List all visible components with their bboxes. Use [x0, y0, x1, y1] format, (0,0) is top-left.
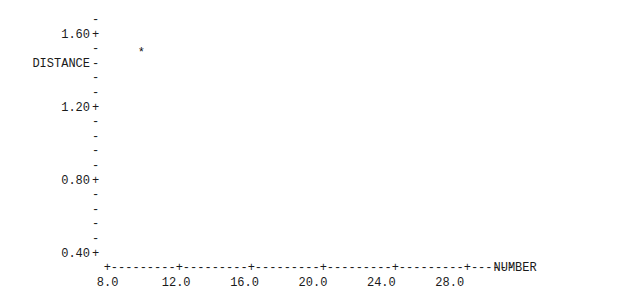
x-axis-tick-label: 20.0	[299, 277, 328, 289]
x-axis-tick-label: 8.0	[97, 277, 119, 289]
y-axis-minor-tick: -	[92, 58, 99, 70]
y-axis-major-tick: +	[92, 175, 99, 187]
x-axis-tick-label: 28.0	[435, 277, 464, 289]
x-axis-title: NUMBER	[494, 262, 537, 274]
x-axis-tick-label: 24.0	[367, 277, 396, 289]
x-axis-tick-label: 16.0	[230, 277, 259, 289]
y-axis-minor-tick: -	[92, 204, 99, 216]
y-axis-minor-tick: -	[92, 189, 99, 201]
y-axis-major-tick: +	[92, 248, 99, 260]
y-axis-major-tick: +	[92, 29, 99, 41]
y-axis-minor-tick: -	[92, 160, 99, 172]
y-axis-minor-tick: -	[92, 233, 99, 245]
y-axis-minor-tick: -	[92, 131, 99, 143]
y-axis-tick-label: 0.80	[0, 175, 90, 187]
data-point-marker: *	[138, 47, 145, 59]
y-axis-minor-tick: -	[92, 87, 99, 99]
y-axis-minor-tick: -	[92, 116, 99, 128]
y-axis-title: DISTANCE	[0, 58, 90, 70]
y-axis-tick-label: 1.60	[0, 29, 90, 41]
y-axis-minor-tick: -	[92, 14, 99, 26]
y-axis-minor-tick: -	[92, 218, 99, 230]
y-axis-minor-tick: -	[92, 43, 99, 55]
y-axis-minor-tick: -	[92, 72, 99, 84]
y-axis-major-tick: +	[92, 102, 99, 114]
x-axis-tick-label: 12.0	[162, 277, 191, 289]
y-axis-tick-label: 1.20	[0, 102, 90, 114]
character-plot-canvas: -1.60+-DISTANCE---1.20+----0.80+----0.40…	[0, 0, 623, 306]
x-axis-line: +---------+---------+---------+---------…	[104, 262, 514, 274]
y-axis-tick-label: 0.40	[0, 248, 90, 260]
y-axis-minor-tick: -	[92, 145, 99, 157]
